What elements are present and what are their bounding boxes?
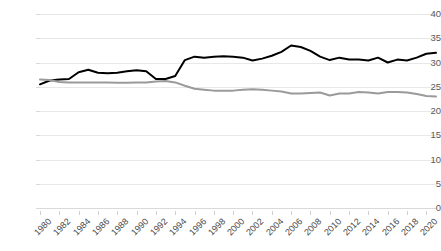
x-tick-mark-2012: [349, 211, 350, 215]
x-tick-mark-1988: [117, 211, 118, 215]
y-tick-label-10: 10: [407, 155, 441, 165]
y-tick-mark-20: [36, 111, 40, 112]
x-tick-mark-1996: [195, 211, 196, 215]
y-tick-label-30: 30: [407, 58, 441, 68]
y-tick-mark-10: [36, 160, 40, 161]
line-chart: 0510152025303540 19801982198419861988199…: [0, 0, 441, 251]
y-tick-mark-0: [36, 208, 40, 209]
x-tick-mark-2000: [233, 211, 234, 215]
y-tick-mark-5: [36, 184, 40, 185]
y-tick-label-15: 15: [407, 131, 441, 141]
x-tick-mark-1986: [98, 211, 99, 215]
x-tick-mark-2014: [368, 211, 369, 215]
x-tick-mark-2018: [407, 211, 408, 215]
y-tick-label-25: 25: [407, 82, 441, 92]
series-black: [40, 46, 436, 85]
y-tick-mark-40: [36, 14, 40, 15]
x-tick-mark-1984: [79, 211, 80, 215]
y-tick-mark-30: [36, 63, 40, 64]
y-tick-label-5: 5: [407, 179, 441, 189]
plot-area: [40, 14, 436, 208]
gridline-0: [40, 208, 436, 209]
y-tick-mark-35: [36, 38, 40, 39]
series-lines: [40, 14, 436, 208]
x-tick-mark-1998: [214, 211, 215, 215]
x-tick-mark-2010: [330, 211, 331, 215]
y-tick-label-40: 40: [407, 9, 441, 19]
x-tick-mark-1990: [137, 211, 138, 215]
x-tick-mark-2004: [272, 211, 273, 215]
y-tick-label-20: 20: [407, 106, 441, 116]
x-tick-mark-2002: [252, 211, 253, 215]
x-tick-mark-2006: [291, 211, 292, 215]
x-tick-mark-1982: [59, 211, 60, 215]
x-tick-mark-2020: [426, 211, 427, 215]
x-tick-mark-2016: [388, 211, 389, 215]
y-tick-label-35: 35: [407, 34, 441, 44]
x-tick-mark-1980: [40, 211, 41, 215]
x-tick-mark-1992: [156, 211, 157, 215]
series-gray: [40, 79, 436, 96]
y-tick-mark-25: [36, 87, 40, 88]
x-tick-mark-2008: [310, 211, 311, 215]
x-axis-labels: 1980198219841986198819901992199419961998…: [40, 211, 436, 251]
x-tick-mark-1994: [175, 211, 176, 215]
y-tick-mark-15: [36, 135, 40, 136]
